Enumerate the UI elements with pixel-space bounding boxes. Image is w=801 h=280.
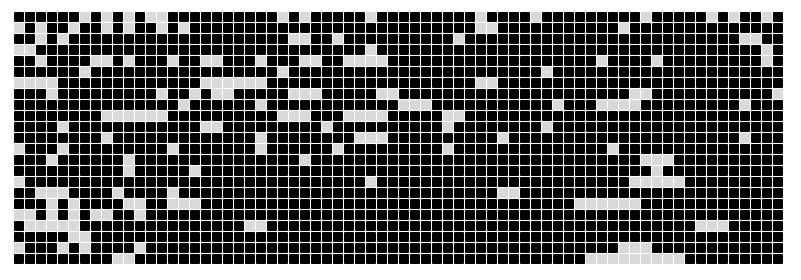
- board-cell[interactable]: [421, 232, 431, 242]
- board-cell[interactable]: [124, 67, 134, 77]
- board-cell[interactable]: [212, 177, 222, 187]
- board-cell[interactable]: [509, 89, 519, 99]
- board-cell[interactable]: [300, 78, 310, 88]
- board-cell[interactable]: [608, 12, 618, 22]
- board-cell[interactable]: [212, 221, 222, 231]
- board-cell[interactable]: [586, 144, 596, 154]
- board-cell[interactable]: [509, 111, 519, 121]
- board-cell[interactable]: [410, 89, 420, 99]
- board-cell[interactable]: [773, 177, 783, 187]
- board-cell[interactable]: [300, 243, 310, 253]
- board-cell[interactable]: [256, 221, 266, 231]
- board-cell[interactable]: [234, 243, 244, 253]
- board-cell[interactable]: [14, 12, 24, 22]
- board-cell[interactable]: [531, 78, 541, 88]
- board-cell[interactable]: [663, 89, 673, 99]
- board-cell[interactable]: [454, 34, 464, 44]
- board-cell[interactable]: [498, 12, 508, 22]
- board-cell[interactable]: [542, 166, 552, 176]
- board-cell[interactable]: [619, 210, 629, 220]
- board-cell[interactable]: [399, 45, 409, 55]
- board-cell[interactable]: [91, 34, 101, 44]
- board-cell[interactable]: [575, 100, 585, 110]
- board-cell[interactable]: [586, 243, 596, 253]
- board-cell[interactable]: [344, 78, 354, 88]
- board-cell[interactable]: [113, 12, 123, 22]
- board-cell[interactable]: [410, 45, 420, 55]
- board-cell[interactable]: [421, 188, 431, 198]
- board-cell[interactable]: [278, 188, 288, 198]
- board-cell[interactable]: [498, 243, 508, 253]
- board-cell[interactable]: [608, 210, 618, 220]
- board-cell[interactable]: [234, 166, 244, 176]
- board-cell[interactable]: [168, 12, 178, 22]
- board-cell[interactable]: [190, 188, 200, 198]
- board-cell[interactable]: [267, 34, 277, 44]
- board-cell[interactable]: [443, 122, 453, 132]
- board-cell[interactable]: [718, 45, 728, 55]
- board-cell[interactable]: [696, 111, 706, 121]
- board-cell[interactable]: [410, 155, 420, 165]
- board-cell[interactable]: [531, 243, 541, 253]
- board-cell[interactable]: [718, 12, 728, 22]
- board-cell[interactable]: [14, 188, 24, 198]
- board-cell[interactable]: [597, 56, 607, 66]
- board-cell[interactable]: [421, 56, 431, 66]
- board-cell[interactable]: [168, 133, 178, 143]
- board-cell[interactable]: [355, 122, 365, 132]
- board-cell[interactable]: [278, 199, 288, 209]
- board-cell[interactable]: [388, 155, 398, 165]
- board-cell[interactable]: [344, 254, 354, 264]
- board-cell[interactable]: [498, 78, 508, 88]
- board-cell[interactable]: [47, 111, 57, 121]
- board-cell[interactable]: [300, 210, 310, 220]
- board-cell[interactable]: [520, 199, 530, 209]
- board-cell[interactable]: [740, 67, 750, 77]
- board-cell[interactable]: [630, 111, 640, 121]
- board-cell[interactable]: [707, 155, 717, 165]
- board-cell[interactable]: [531, 12, 541, 22]
- board-cell[interactable]: [14, 23, 24, 33]
- board-cell[interactable]: [69, 89, 79, 99]
- board-cell[interactable]: [718, 67, 728, 77]
- board-cell[interactable]: [498, 56, 508, 66]
- board-cell[interactable]: [597, 111, 607, 121]
- board-cell[interactable]: [421, 243, 431, 253]
- board-cell[interactable]: [454, 221, 464, 231]
- board-cell[interactable]: [520, 12, 530, 22]
- board-cell[interactable]: [300, 23, 310, 33]
- board-cell[interactable]: [278, 100, 288, 110]
- board-cell[interactable]: [729, 166, 739, 176]
- board-cell[interactable]: [190, 199, 200, 209]
- board-cell[interactable]: [267, 111, 277, 121]
- board-cell[interactable]: [553, 210, 563, 220]
- board-cell[interactable]: [432, 111, 442, 121]
- board-cell[interactable]: [245, 111, 255, 121]
- board-cell[interactable]: [608, 199, 618, 209]
- board-cell[interactable]: [674, 254, 684, 264]
- board-cell[interactable]: [58, 12, 68, 22]
- board-cell[interactable]: [25, 111, 35, 121]
- board-cell[interactable]: [399, 89, 409, 99]
- board-cell[interactable]: [685, 221, 695, 231]
- board-cell[interactable]: [355, 144, 365, 154]
- board-cell[interactable]: [91, 155, 101, 165]
- board-cell[interactable]: [377, 34, 387, 44]
- board-cell[interactable]: [102, 210, 112, 220]
- board-cell[interactable]: [509, 122, 519, 132]
- board-cell[interactable]: [685, 243, 695, 253]
- board-cell[interactable]: [564, 34, 574, 44]
- board-cell[interactable]: [333, 144, 343, 154]
- board-cell[interactable]: [388, 232, 398, 242]
- board-cell[interactable]: [630, 232, 640, 242]
- board-cell[interactable]: [377, 67, 387, 77]
- board-cell[interactable]: [399, 166, 409, 176]
- board-cell[interactable]: [740, 166, 750, 176]
- board-cell[interactable]: [773, 188, 783, 198]
- board-cell[interactable]: [762, 56, 772, 66]
- board-cell[interactable]: [674, 100, 684, 110]
- board-cell[interactable]: [399, 78, 409, 88]
- board-cell[interactable]: [366, 133, 376, 143]
- board-cell[interactable]: [487, 177, 497, 187]
- board-cell[interactable]: [762, 199, 772, 209]
